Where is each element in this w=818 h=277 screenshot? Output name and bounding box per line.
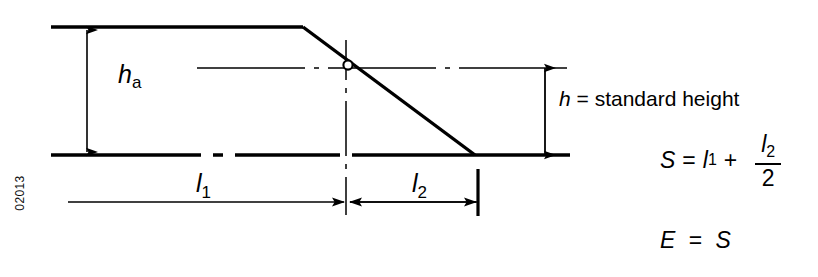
ha-symbol: h (118, 60, 132, 88)
l1-dimension-label: l1 (196, 171, 211, 201)
height-symbol: h (559, 87, 571, 110)
slope-line (303, 27, 475, 155)
formula-e-equals: = (689, 227, 702, 253)
height-definition-label: h = standard height (559, 88, 739, 109)
formula-s-term1-subscript: 1 (708, 152, 717, 168)
formula-e-lhs: E (660, 227, 675, 253)
figure-identifier: 02013 (13, 161, 27, 225)
formula-s-fraction: l2 2 (755, 132, 781, 190)
formula-s-numerator-subscript: 2 (766, 143, 775, 160)
l2-dimension-label: l2 (412, 171, 427, 201)
formula-s-numerator-wrap: l2 (758, 132, 778, 161)
formula-e-rhs: S (716, 227, 731, 253)
formula-s-denominator: 2 (762, 166, 775, 190)
formula-s-plus: + (724, 149, 737, 172)
figure-canvas: 02013 ha l1 l2 h = standard height S = l… (0, 0, 818, 277)
ha-subscript: a (132, 73, 141, 92)
ha-dimension-label: ha (118, 62, 141, 91)
eye-distance-formula: E = S (660, 229, 731, 252)
sight-distance-formula: S = l1 + l2 2 (660, 131, 781, 189)
l1-subscript: 1 (202, 183, 211, 202)
l2-subscript: 2 (418, 183, 427, 202)
intersection-point-marker (343, 60, 352, 69)
height-definition-text: = standard height (577, 87, 740, 110)
formula-s-equals: = (682, 149, 695, 172)
formula-s-lhs: S (660, 149, 675, 172)
